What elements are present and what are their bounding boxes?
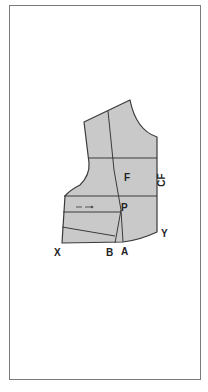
label-point-b: B [106, 248, 113, 258]
label-point-x: X [54, 248, 61, 258]
bodice-pattern-diagram [0, 0, 208, 392]
label-center-front: CF [157, 173, 167, 186]
label-point-y: Y [161, 229, 168, 239]
label-front: F [124, 173, 130, 183]
label-point-p: P [121, 203, 128, 213]
label-point-a: A [121, 247, 128, 257]
